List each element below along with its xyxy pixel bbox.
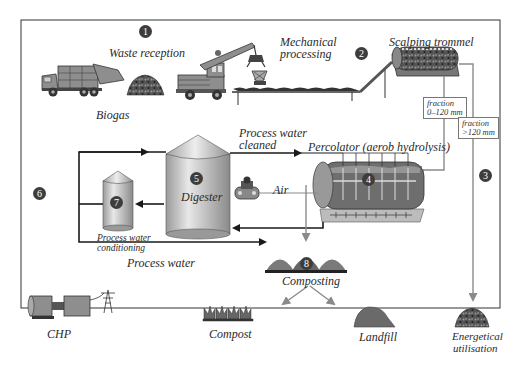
energetical-pile-icon xyxy=(455,308,489,327)
process-water-conditioning-label-1: Process water xyxy=(97,233,151,243)
step-number-7: 7 xyxy=(110,196,123,209)
step-number-2: 2 xyxy=(355,47,368,60)
power-pylon-icon xyxy=(90,290,115,313)
percolator-label: Percolator (aerob hydrolysis) xyxy=(308,141,450,153)
process-water-conditioning-label-2: conditioning xyxy=(97,243,145,253)
step-number-3: 3 xyxy=(479,169,492,182)
waste-reception-label: Waste reception xyxy=(109,47,185,59)
fraction-large-box: fraction >120 mm xyxy=(458,117,499,139)
digester-label: Digester xyxy=(181,191,222,203)
composting-to-compost-arrow xyxy=(283,286,308,304)
compost-plants-icon xyxy=(203,306,253,321)
compost-label: Compost xyxy=(209,328,252,340)
step-number-1: 1 xyxy=(139,25,152,38)
fraction-small-label-2: 0–120 mm xyxy=(427,108,463,117)
percolator-to-digester-arrow xyxy=(234,222,323,228)
percolator-icon xyxy=(313,153,424,222)
process-water-label: Process water xyxy=(127,257,195,269)
process-diagram xyxy=(0,0,521,367)
landfill-icon xyxy=(354,307,395,327)
energetical-utilisation-label-1: Energetical xyxy=(452,331,503,342)
process-water-cleaned-label-2: cleaned xyxy=(239,139,276,151)
energetical-utilisation-label-2: utilisation xyxy=(453,343,498,354)
fraction-small-line xyxy=(415,76,444,170)
step-number-8: 8 xyxy=(300,257,313,270)
scalping-trommel-icon xyxy=(392,47,459,76)
digester-tank-icon xyxy=(166,135,230,239)
fraction-large-label-2: >120 mm xyxy=(462,128,495,137)
air-label: Air xyxy=(273,184,288,196)
air-compressor-icon xyxy=(235,177,259,200)
mechanical-processing-label-2: processing xyxy=(280,48,332,60)
scalping-trommel-label: Scalping trommel xyxy=(389,36,474,48)
step-number-6: 6 xyxy=(33,187,46,200)
step-number-5: 5 xyxy=(190,172,203,185)
waste-pile-icon xyxy=(127,75,164,95)
chp-label: CHP xyxy=(47,328,71,340)
landfill-label: Landfill xyxy=(359,331,397,343)
chp-unit-icon xyxy=(28,296,90,319)
composting-to-landfill-arrow xyxy=(310,286,334,304)
fraction-small-box: fraction 0–120 mm xyxy=(423,97,467,119)
garbage-truck-icon xyxy=(42,64,124,97)
biogas-label: Biogas xyxy=(96,109,129,121)
composting-label: Composting xyxy=(282,275,340,287)
step-number-4: 4 xyxy=(362,173,375,186)
hopper-icon xyxy=(252,71,267,85)
